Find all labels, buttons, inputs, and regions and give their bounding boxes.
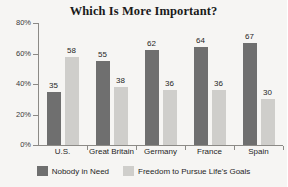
bar xyxy=(163,90,177,145)
bar xyxy=(65,57,79,145)
bar xyxy=(96,61,110,145)
bar xyxy=(114,87,128,145)
y-axis-tick xyxy=(33,145,38,146)
legend-item[interactable]: Nobody in Need xyxy=(37,166,109,176)
legend-swatch-icon xyxy=(123,166,134,176)
bar-value-label: 36 xyxy=(157,79,183,88)
y-axis-tick-label: 40% xyxy=(3,79,31,88)
bar xyxy=(145,50,159,145)
bar-value-label: 38 xyxy=(108,76,134,85)
bar xyxy=(212,90,226,145)
legend-label: Nobody in Need xyxy=(52,167,109,176)
bar xyxy=(47,92,61,145)
bar-value-label: 36 xyxy=(206,79,232,88)
chart-title: Which Is More Important? xyxy=(0,4,287,19)
x-axis-line xyxy=(38,145,283,146)
bar-value-label: 55 xyxy=(90,50,116,59)
bar-value-label: 67 xyxy=(237,32,263,41)
bar-value-label: 30 xyxy=(255,88,281,97)
bar-value-label: 58 xyxy=(59,46,85,55)
legend-item[interactable]: Freedom to Pursue Life's Goals xyxy=(123,166,250,176)
y-axis-tick-label: 20% xyxy=(3,110,31,119)
bar xyxy=(194,47,208,145)
y-axis-tick-label: 80% xyxy=(3,18,31,27)
bar-value-label: 64 xyxy=(188,36,214,45)
plot-area: 35585538623664366730 xyxy=(38,23,283,145)
legend-label: Freedom to Pursue Life's Goals xyxy=(138,167,250,176)
y-axis-tick-label: 60% xyxy=(3,49,31,58)
bar-chart: Which Is More Important? 0%20%40%60%80% … xyxy=(0,0,287,187)
x-axis-category-label: Spain xyxy=(219,147,288,156)
chart-legend: Nobody in NeedFreedom to Pursue Life's G… xyxy=(0,166,287,176)
bar xyxy=(261,99,275,145)
bar-value-label: 35 xyxy=(41,81,67,90)
bar-value-label: 62 xyxy=(139,39,165,48)
legend-swatch-icon xyxy=(37,166,48,176)
